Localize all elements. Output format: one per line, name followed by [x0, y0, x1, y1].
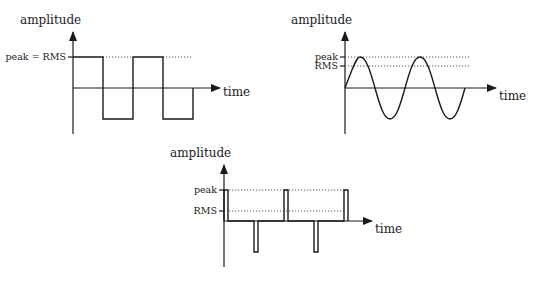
pulse-wave-chart: amplitude time peak RMS — [170, 146, 402, 267]
x-axis-label: time — [499, 89, 526, 103]
y-axis-label: amplitude — [170, 146, 231, 160]
sine-wave-chart: amplitude time peak RMS — [291, 13, 526, 134]
peak-rms-label: peak = RMS — [5, 51, 66, 62]
x-axis-label: time — [375, 222, 402, 236]
y-axis-label: amplitude — [20, 13, 81, 27]
y-axis-label: amplitude — [291, 13, 352, 27]
x-axis-label: time — [223, 85, 250, 99]
peak-label: peak — [194, 184, 217, 195]
rms-label: RMS — [315, 60, 338, 71]
square-wave-chart: amplitude time peak = RMS — [5, 13, 250, 134]
rms-label: RMS — [194, 205, 217, 216]
